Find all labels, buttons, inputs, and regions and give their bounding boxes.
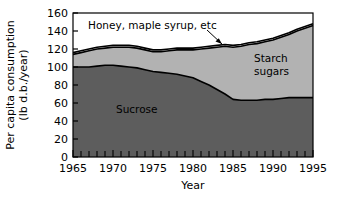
x-tick-label: 1980 (179, 162, 207, 175)
x-tick-label: 1990 (259, 162, 287, 175)
x-tick-label: 1965 (59, 162, 87, 175)
y-tick-label: 140 (47, 25, 68, 38)
stacked-area-chart: 020406080100120140160 196519701975198019… (0, 0, 338, 197)
y-axis-title-line1: Per capita consumption (4, 20, 17, 150)
x-tick-label: 1975 (139, 162, 167, 175)
y-tick-label: 20 (54, 133, 68, 146)
x-tick-label: 1995 (299, 162, 327, 175)
series-label-starch: Starch (254, 52, 288, 64)
series-label-sugars: sugars (254, 65, 289, 77)
x-axis-tick-labels: 1965197019751980198519901995 (59, 162, 327, 175)
series-label-sucrose: Sucrose (116, 103, 158, 115)
y-tick-label: 40 (54, 115, 68, 128)
chart-figure: 020406080100120140160 196519701975198019… (0, 0, 338, 197)
y-tick-label: 120 (47, 43, 68, 56)
annotation-honey-label: Honey, maple syrup, etc (88, 19, 217, 31)
y-tick-label: 160 (47, 7, 68, 20)
x-tick-label: 1985 (219, 162, 247, 175)
y-tick-label: 80 (54, 79, 68, 92)
y-tick-label: 60 (54, 97, 68, 110)
y-axis-tick-labels: 020406080100120140160 (47, 7, 68, 164)
x-tick-label: 1970 (99, 162, 127, 175)
y-tick-label: 100 (47, 61, 68, 74)
y-axis-title-line2: (lb d.b./year) (17, 49, 30, 120)
x-axis-title: Year (180, 179, 205, 192)
